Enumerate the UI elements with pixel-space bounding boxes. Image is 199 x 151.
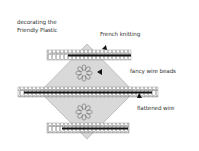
label-french-knitting: French knitting	[100, 31, 140, 38]
label-flattened-wire: flattened wire	[137, 105, 174, 112]
label-decorating-line1: decorating the	[17, 19, 57, 26]
label-decorating-line2: Friendly Plastic	[17, 27, 57, 34]
top-wire-bar	[47, 50, 131, 60]
middle-wire-bar	[18, 87, 158, 97]
label-fancy-wire-beads: fancy wire beads	[130, 68, 176, 75]
arrow-icon	[102, 45, 107, 50]
bottom-wire-bar	[47, 123, 129, 133]
